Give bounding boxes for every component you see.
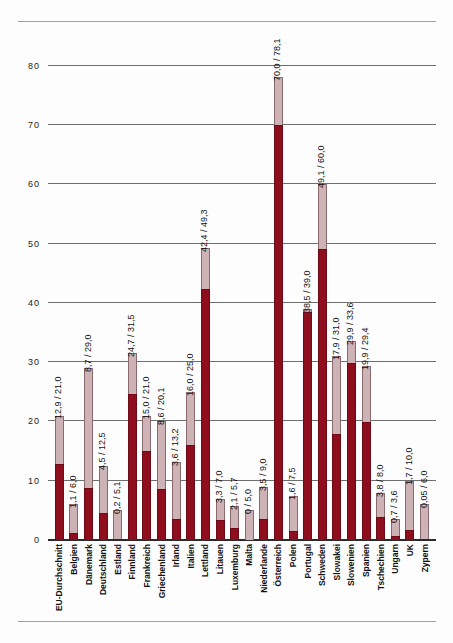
- stacked-bar[interactable]: 70,0 / 78,1: [274, 77, 283, 540]
- bar-segment-lower[interactable]: [113, 539, 122, 540]
- bar-value-label: 4,5 / 12,5: [97, 432, 107, 470]
- bar-segment-lower[interactable]: [303, 312, 312, 540]
- bar-segment-upper[interactable]: [157, 421, 166, 489]
- stacked-bar[interactable]: 1,6 / 7,5: [289, 496, 298, 540]
- stacked-bar[interactable]: 0,05 / 6,0: [420, 504, 429, 540]
- category-label-slot: Tschechien: [373, 542, 388, 638]
- bar-segment-lower[interactable]: [142, 451, 151, 540]
- stacked-bar[interactable]: 0,7 / 3,6: [391, 519, 400, 540]
- bar-segment-lower[interactable]: [420, 539, 429, 540]
- category-label-slot: Dänemark: [81, 542, 96, 638]
- stacked-bar[interactable]: 2,1 / 5,7: [230, 506, 239, 540]
- bar-segment-upper[interactable]: [274, 77, 283, 125]
- stacked-bar[interactable]: 38,5 / 39,0: [303, 309, 312, 540]
- bar-segment-lower[interactable]: [186, 445, 195, 540]
- bar-value-label: 0,05 / 6,0: [419, 471, 429, 509]
- bar-segment-upper[interactable]: [186, 392, 195, 445]
- stacked-bar[interactable]: 1,1 / 6,0: [69, 504, 78, 540]
- bar-segment-upper[interactable]: [259, 487, 268, 520]
- bar-segment-lower[interactable]: [201, 289, 210, 540]
- bar-segment-upper[interactable]: [245, 510, 254, 540]
- bar-segment-lower[interactable]: [69, 533, 78, 540]
- category-label-slot: Portugal: [300, 542, 315, 638]
- stacked-bar[interactable]: 42,4 / 49,3: [201, 248, 210, 540]
- category-label: Irland: [171, 544, 181, 567]
- bar-segment-upper[interactable]: [289, 496, 298, 531]
- bar-segment-upper[interactable]: [172, 462, 181, 519]
- bar-segment-lower[interactable]: [55, 464, 64, 540]
- bar-value-label: 16,0 / 25,0: [185, 353, 195, 396]
- stacked-bar[interactable]: 3,6 / 13,2: [172, 462, 181, 540]
- bar-segment-lower[interactable]: [259, 519, 268, 540]
- category-label-slot: Luxemburg: [227, 542, 242, 638]
- category-label: Dänemark: [84, 544, 94, 585]
- bar-segment-upper[interactable]: [99, 466, 108, 513]
- bar-segment-upper[interactable]: [405, 481, 414, 530]
- category-label: Litauen: [215, 544, 225, 574]
- bar-slot: 0,2 / 5,1: [110, 36, 125, 540]
- stacked-bar[interactable]: 8,7 / 29,0: [84, 368, 93, 540]
- category-label: Estland: [113, 544, 123, 575]
- stacked-bar[interactable]: 17,9 / 31,0: [332, 356, 341, 540]
- bar-value-label: 3,3 / 7,0: [214, 470, 224, 503]
- category-label: EU-Durchschnitt: [54, 544, 64, 611]
- bar-segment-upper[interactable]: [84, 368, 93, 488]
- stacked-bar[interactable]: 24,7 / 31,5: [128, 353, 137, 540]
- stacked-bar[interactable]: 0 / 5,0: [245, 510, 254, 540]
- category-label-slot: Malta: [242, 542, 257, 638]
- bar-segment-upper[interactable]: [318, 184, 327, 249]
- stacked-bar[interactable]: 16,0 / 25,0: [186, 392, 195, 540]
- category-label-slot: Polen: [286, 542, 301, 638]
- category-label: Ungarn: [390, 544, 400, 574]
- bar-value-label: 70,0 / 78,1: [272, 38, 282, 81]
- category-label: Slowenien: [346, 544, 356, 586]
- category-label: Finnland: [127, 544, 137, 579]
- bar-value-label: 49,1 / 60,0: [316, 146, 326, 189]
- bar-segment-lower[interactable]: [128, 394, 137, 540]
- bar-segment-upper[interactable]: [362, 366, 371, 422]
- category-label: Tschechien: [376, 544, 386, 590]
- category-label-slot: Niederlande: [257, 542, 272, 638]
- bar-segment-lower[interactable]: [216, 520, 225, 540]
- bar-segment-lower[interactable]: [157, 489, 166, 540]
- bar-segment-lower[interactable]: [172, 519, 181, 540]
- bar-slot: 12,9 / 21,0: [52, 36, 67, 540]
- stacked-bar[interactable]: 15,0 / 21,0: [142, 415, 151, 540]
- bar-segment-upper[interactable]: [201, 248, 210, 289]
- bar-segment-upper[interactable]: [55, 416, 64, 464]
- bar-segment-lower[interactable]: [230, 528, 239, 540]
- bar-segment-lower[interactable]: [84, 488, 93, 540]
- bar-segment-lower[interactable]: [318, 249, 327, 540]
- bar-segment-upper[interactable]: [113, 510, 122, 539]
- bar-segment-lower[interactable]: [99, 513, 108, 540]
- stacked-bar[interactable]: 4,5 / 12,5: [99, 466, 108, 540]
- stacked-bar[interactable]: 3,8 / 8,0: [376, 493, 385, 540]
- bar-segment-lower[interactable]: [391, 536, 400, 540]
- stacked-bar[interactable]: 49,1 / 60,0: [318, 184, 327, 540]
- stacked-bar[interactable]: 1,7 / 10,0: [405, 481, 414, 540]
- stacked-bar[interactable]: 12,9 / 21,0: [55, 415, 64, 540]
- bar-segment-lower[interactable]: [376, 517, 385, 540]
- bar-segment-lower[interactable]: [347, 363, 356, 540]
- stacked-bar[interactable]: 3,5 / 9,0: [259, 487, 268, 540]
- stacked-bar[interactable]: 8,6 / 20,1: [157, 421, 166, 540]
- stacked-bar[interactable]: 0,2 / 5,1: [113, 510, 122, 540]
- bar-segment-lower[interactable]: [332, 434, 341, 540]
- y-axis-tick-label: 20: [28, 416, 40, 426]
- bar-segment-lower[interactable]: [362, 422, 371, 540]
- bar-segment-lower[interactable]: [289, 531, 298, 540]
- stacked-bar[interactable]: 3,3 / 7,0: [216, 499, 225, 541]
- bar-slot: 1,6 / 7,5: [286, 36, 301, 540]
- bar-segment-upper[interactable]: [142, 416, 151, 452]
- bar-value-label: 8,7 / 29,0: [83, 335, 93, 373]
- bar-slot: 3,8 / 8,0: [373, 36, 388, 540]
- y-axis-tick-label: 70: [28, 120, 40, 130]
- bar-segment-upper[interactable]: [69, 504, 78, 533]
- bar-segment-lower[interactable]: [274, 125, 283, 540]
- stacked-bar[interactable]: 19,9 / 29,4: [362, 366, 371, 540]
- bar-segment-upper[interactable]: [420, 504, 429, 539]
- stacked-bar[interactable]: 29,9 / 33,6: [347, 341, 356, 540]
- bar-segment-upper[interactable]: [332, 356, 341, 434]
- bar-segment-lower[interactable]: [405, 530, 414, 540]
- bar-segment-upper[interactable]: [128, 353, 137, 393]
